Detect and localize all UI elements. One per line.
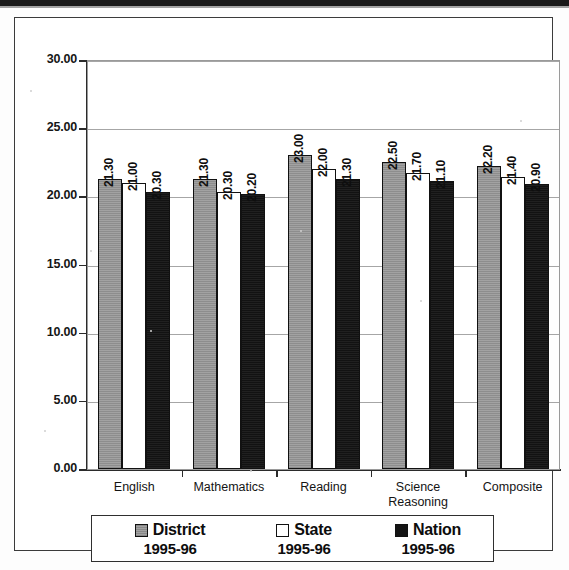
bar-district-composite [477, 166, 501, 469]
bar-state-reading [312, 169, 336, 469]
bar-value-label: 22.50 [386, 141, 400, 170]
bar-value-label: 21.40 [505, 156, 519, 185]
y-axis-tick [79, 469, 87, 471]
bar-value-label: 20.30 [221, 171, 235, 200]
bar-nation-mathematics [241, 194, 265, 469]
bar-value-label: 21.10 [434, 160, 448, 189]
y-axis-tick [79, 265, 87, 267]
category-label-line: English [87, 480, 182, 495]
x-axis-category-label: Composite [465, 480, 560, 495]
bar-value-label: 21.70 [410, 152, 424, 181]
y-axis-tick [79, 401, 87, 403]
gridline [88, 129, 559, 130]
category-label-line: Mathematics [182, 480, 277, 495]
scan-speckle [420, 300, 422, 302]
y-axis-tick-label: 20.00 [47, 188, 77, 202]
x-axis-tick [371, 470, 373, 477]
scan-artifact-band-secondary [0, 6, 569, 8]
category-label-line: Reading [276, 480, 371, 495]
bar-value-label: 22.20 [481, 145, 495, 174]
y-axis-tick [79, 60, 87, 62]
bar-district-english [98, 179, 122, 469]
bar-state-science-reasoning [406, 173, 430, 469]
legend-series-year: 1995-96 [240, 540, 368, 557]
bar-nation-science-reasoning [430, 181, 454, 469]
legend-series-name: District [153, 521, 206, 539]
legend-series-name: State [294, 521, 332, 539]
legend-item-district[interactable]: District1995-96 [106, 521, 234, 557]
legend-series-year: 1995-96 [364, 540, 492, 557]
y-axis-tick-label: 10.00 [47, 325, 77, 339]
scan-speckle [150, 330, 152, 332]
category-label-line: Reasoning [371, 495, 466, 510]
legend-item-nation[interactable]: Nation1995-96 [364, 521, 492, 557]
bar-value-label: 21.30 [102, 158, 116, 187]
bar-value-label: 20.30 [150, 171, 164, 200]
bar-nation-reading [336, 179, 360, 469]
x-axis-category-label: Reading [276, 480, 371, 495]
bar-district-mathematics [193, 179, 217, 469]
y-axis-tick [79, 333, 87, 335]
legend-swatch-nation-icon [395, 524, 408, 537]
scan-speckle [44, 430, 46, 432]
bar-state-english [122, 183, 146, 469]
x-axis-tick [276, 470, 278, 477]
bar-value-label: 22.00 [316, 148, 330, 177]
bar-district-science-reasoning [382, 162, 406, 469]
bar-value-label: 23.00 [292, 134, 306, 163]
chart-page: 30.0025.0020.0015.0010.005.000.00 21.302… [0, 0, 569, 570]
x-axis-category-label: Mathematics [182, 480, 277, 495]
bar-state-composite [501, 177, 525, 469]
category-label-line: Composite [465, 480, 560, 495]
scan-speckle [90, 250, 92, 252]
y-axis-tick-label: 25.00 [47, 120, 77, 134]
y-axis-tick-labels: 30.0025.0020.0015.0010.005.000.00 [15, 18, 77, 552]
scan-speckle [520, 120, 522, 122]
bar-value-label: 20.20 [245, 173, 259, 202]
x-axis-tick [182, 470, 184, 477]
bar-value-label: 21.30 [340, 158, 354, 187]
y-axis-tick [79, 196, 87, 198]
y-axis-tick-label: 15.00 [47, 257, 77, 271]
legend-series-name: Nation [413, 521, 461, 539]
legend-item-state[interactable]: State1995-96 [240, 521, 368, 557]
y-axis-tick [79, 128, 87, 130]
category-label-line: Science [371, 480, 466, 495]
scan-speckle [250, 470, 252, 472]
x-axis-category-label: English [87, 480, 182, 495]
chart-frame: 30.0025.0020.0015.0010.005.000.00 21.302… [14, 17, 553, 551]
legend-swatch-state-icon [276, 524, 289, 537]
legend-series-year: 1995-96 [106, 540, 234, 557]
bar-district-reading [288, 155, 312, 469]
bar-value-label: 21.00 [126, 162, 140, 191]
legend-swatch-district-icon [135, 524, 148, 537]
y-axis-tick-label: 30.00 [47, 52, 77, 66]
chart-legend: District1995-96State1995-96Nation1995-96 [91, 515, 494, 562]
bar-state-mathematics [217, 192, 241, 469]
gridline [88, 61, 559, 62]
y-axis-tick-label: 5.00 [53, 393, 77, 407]
x-axis-tick [465, 470, 467, 477]
x-axis-category-label: ScienceReasoning [371, 480, 466, 510]
scan-speckle [300, 230, 302, 232]
bar-nation-composite [525, 184, 549, 469]
bar-value-label: 21.30 [197, 158, 211, 187]
bar-value-label: 20.90 [529, 163, 543, 192]
y-axis-tick-label: 0.00 [53, 461, 77, 475]
scan-speckle [30, 90, 32, 92]
